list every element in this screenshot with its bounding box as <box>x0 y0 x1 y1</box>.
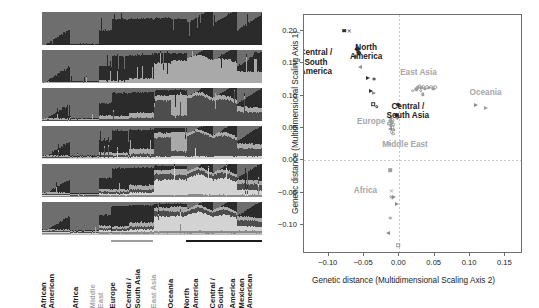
scatter-point <box>386 231 390 235</box>
x-tick-mark <box>434 253 435 256</box>
scatter-label-east-asia: East Asia <box>400 68 437 77</box>
scatter-point: × <box>346 28 351 35</box>
x-tick-label: 0.10 <box>462 258 477 267</box>
scatter-point <box>389 195 393 199</box>
population-label-oceania: Oceania <box>166 278 174 308</box>
region-underline-bar <box>42 240 262 243</box>
admixture-strip-k5 <box>42 126 262 159</box>
scatter-point <box>392 128 395 131</box>
population-label-africa: Africa <box>72 286 80 308</box>
scatter-point <box>416 86 419 89</box>
scatter-point <box>419 89 423 93</box>
scatter-point <box>366 76 370 80</box>
scatter-point <box>391 123 395 127</box>
scatter-point <box>421 93 424 96</box>
admixture-strip-k7 <box>42 202 262 235</box>
scatter-point <box>358 65 362 69</box>
genetics-figure: K = 2 K = 3 K = 4 K = 5 K = 6 K = 7 Afri… <box>0 0 539 308</box>
admixture-strip-k6 <box>42 164 262 197</box>
region-underline-0 <box>111 240 153 242</box>
scatter-point <box>425 86 429 90</box>
structure-row-k7: K = 7 <box>42 202 262 235</box>
structure-row-k6: K = 6 <box>42 164 262 197</box>
y-tick-label: −0.10 <box>269 219 297 228</box>
y-axis-title: Genetic distance (Multidimensional Scali… <box>291 28 300 218</box>
scatter-point <box>474 103 478 107</box>
scatter-point <box>391 132 395 136</box>
scatter-point <box>392 195 396 199</box>
x-tick-label: −0.05 <box>353 258 372 267</box>
population-label-central-south-america: South <box>217 286 225 308</box>
population-label-central-south-asia: South Asia <box>133 269 141 308</box>
population-label-middle-east: East <box>97 292 105 308</box>
scatter-point <box>418 84 422 88</box>
admixture-strip-k2 <box>42 12 262 45</box>
scatter-point <box>420 86 423 89</box>
scatter-point <box>342 29 346 33</box>
region-underline-1 <box>186 240 262 242</box>
admixture-strip-k4 <box>42 88 262 121</box>
population-label-east-asia: East Asia <box>150 274 158 308</box>
scatter-label-africa: Africa <box>354 187 377 196</box>
x-tick-mark <box>504 253 505 256</box>
y-tick-mark <box>300 62 303 63</box>
y-tick-mark <box>300 30 303 31</box>
scatter-point <box>427 86 430 89</box>
x-tick-mark <box>328 253 329 256</box>
scatter-label-central-south-america: Central / South America <box>303 48 332 76</box>
mds-scatter-panel: ×◆◆+∗◆◆+×✹◆+×+∗ Central / South AmericaN… <box>268 0 539 308</box>
population-labels: AfricanAmericanAfricaMiddleEastEuropeCen… <box>42 244 262 308</box>
x-tick-mark <box>469 253 470 256</box>
scatter-plot-area: ×◆◆+∗◆◆+×✹◆+×+∗ Central / South AmericaN… <box>303 14 522 253</box>
population-label-europe: Europe <box>108 282 116 308</box>
y-tick-mark <box>300 192 303 193</box>
scatter-label-north-america: North America <box>350 42 382 61</box>
scatter-point <box>484 106 488 110</box>
admixture-strip-k3 <box>42 50 262 83</box>
scatter-point <box>395 202 399 206</box>
structure-row-k2: K = 2 <box>42 12 262 45</box>
x-tick-label: 0.00 <box>391 258 406 267</box>
scatter-point <box>411 89 415 93</box>
x-tick-label: 0.15 <box>497 258 512 267</box>
scatter-point <box>375 105 379 109</box>
structure-row-k5: K = 5 <box>42 126 262 159</box>
x-tick-label: −0.10 <box>318 258 337 267</box>
structure-row-k3: K = 3 <box>42 50 262 83</box>
scatter-label-middle-east: Middle East <box>382 141 428 150</box>
scatter-point <box>388 122 392 126</box>
scatter-point <box>432 87 435 90</box>
scatter-label-oceania: Oceania <box>470 88 502 97</box>
zero-reference-line-horizontal <box>304 160 522 161</box>
y-tick-mark <box>300 127 303 128</box>
scatter-point <box>371 102 375 106</box>
scatter-point <box>388 168 392 172</box>
structure-admixture-panel: K = 2 K = 3 K = 4 K = 5 K = 6 K = 7 Afri… <box>0 0 268 308</box>
scatter-point <box>422 85 426 89</box>
scatter-point <box>391 126 395 130</box>
zero-reference-line-vertical <box>399 15 400 253</box>
scatter-label-central-south-asia: Central / South Asia <box>387 101 429 120</box>
x-tick-mark <box>363 253 364 256</box>
scatter-point <box>388 127 392 131</box>
structure-row-k4: K = 4 <box>42 88 262 121</box>
y-tick-mark <box>300 159 303 160</box>
scatter-point <box>429 85 433 89</box>
scatter-point <box>389 124 392 127</box>
scatter-point: × <box>389 188 394 195</box>
x-tick-mark <box>398 253 399 256</box>
x-axis-title: Genetic distance (Multidimensional Scali… <box>268 276 539 285</box>
population-label-african-american: American <box>48 273 56 308</box>
scatter-point <box>434 86 438 90</box>
scatter-point: ∗ <box>387 215 392 222</box>
scatter-point <box>415 88 418 91</box>
scatter-point: + <box>390 195 395 202</box>
scatter-point: ∗ <box>371 76 376 83</box>
scatter-point <box>423 87 426 90</box>
population-label-america-mexican-american: American <box>246 273 254 308</box>
scatter-point <box>372 91 376 95</box>
scatter-point <box>390 121 393 124</box>
y-tick-mark <box>300 224 303 225</box>
scatter-label-europe: Europe <box>357 117 385 126</box>
scatter-point <box>369 89 373 93</box>
